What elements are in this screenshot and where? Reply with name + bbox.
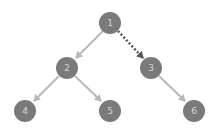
node-label: 1 [107, 18, 113, 28]
node-label: 5 [107, 106, 113, 116]
tree-node-4: 4 [14, 100, 36, 122]
node-label: 4 [22, 106, 28, 116]
tree-node-1: 1 [99, 12, 121, 34]
tree-node-2: 2 [56, 57, 78, 79]
edge-2-5 [75, 76, 101, 101]
edge-1-3-dotted [118, 31, 143, 58]
node-label: 2 [64, 63, 70, 73]
node-label: 3 [148, 63, 154, 73]
tree-node-6: 6 [183, 100, 205, 122]
tree-node-3: 3 [140, 57, 162, 79]
tree-node-5: 5 [99, 100, 121, 122]
edge-2-4 [34, 76, 59, 101]
node-label: 6 [191, 106, 197, 116]
edge-1-2 [76, 31, 103, 58]
edge-3-6 [159, 76, 185, 101]
tree-diagram: 1 2 3 4 5 6 [0, 0, 215, 139]
